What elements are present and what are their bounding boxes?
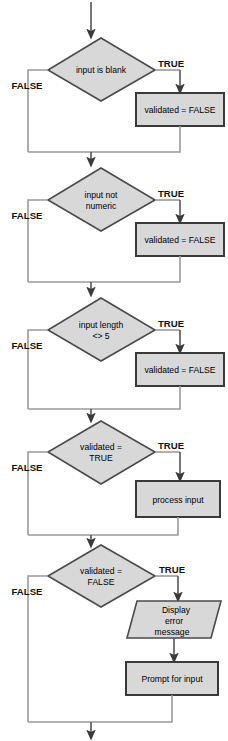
section-validated-false-check: validated = FALSE TRUE Display error mes… xyxy=(12,545,221,735)
true-label-3: TRUE xyxy=(158,318,185,329)
io-display-error-message-label-2: error xyxy=(165,616,183,626)
false-label-1: FALSE xyxy=(12,80,44,91)
decision-input-is-blank-label-1: input is blank xyxy=(76,65,127,75)
process-validated-false-3-label: validated = FALSE xyxy=(145,365,216,375)
decision-input-not-numeric-label-1: input not xyxy=(85,190,119,200)
decision-input-length-label-2: <> 5 xyxy=(92,331,109,341)
decision-validated-false[interactable] xyxy=(48,545,155,607)
true-label-1: TRUE xyxy=(158,58,185,69)
true-label-4: TRUE xyxy=(158,440,185,451)
merge-line-2 xyxy=(28,256,180,282)
io-display-error-message-label-1: Display xyxy=(162,605,191,615)
process-validated-false-1-label: validated = FALSE xyxy=(145,105,216,115)
false-branch-line-5 xyxy=(28,576,48,722)
merge-line-1 xyxy=(28,126,180,152)
decision-input-length-label-1: input length xyxy=(79,320,124,330)
process-validated-false-2-label: validated = FALSE xyxy=(145,235,216,245)
flowchart-canvas: input is blank TRUE validated = FALSE FA… xyxy=(0,0,228,741)
decision-validated-true-label-1: validated = xyxy=(80,442,122,452)
process-process-input-label: process input xyxy=(152,495,204,505)
merge-line-4 xyxy=(28,517,178,535)
decision-validated-false-label-2: FALSE xyxy=(88,577,115,587)
flowchart-svg: input is blank TRUE validated = FALSE FA… xyxy=(0,0,228,741)
false-label-4: FALSE xyxy=(12,462,44,473)
merge-line-5 xyxy=(28,695,172,722)
section-numeric-check: input not numeric TRUE validated = FALSE… xyxy=(12,168,224,292)
false-label-2: FALSE xyxy=(12,210,44,221)
merge-line-3 xyxy=(28,386,180,409)
false-label-3: FALSE xyxy=(12,340,44,351)
false-label-5: FALSE xyxy=(12,586,44,597)
true-label-5: TRUE xyxy=(159,564,186,575)
io-display-error-message-label-3: message xyxy=(155,627,190,637)
decision-input-not-numeric-label-2: numeric xyxy=(86,201,117,211)
true-label-2: TRUE xyxy=(158,188,185,199)
section-validated-true-check: validated = TRUE TRUE process input FALS… xyxy=(12,421,220,543)
decision-validated-false-label-1: validated = xyxy=(80,566,122,576)
section-blank-check: input is blank TRUE validated = FALSE FA… xyxy=(12,38,224,162)
decision-validated-true-label-2: TRUE xyxy=(89,453,113,463)
process-prompt-for-input-label: Prompt for input xyxy=(141,674,203,684)
section-length-check: input length <> 5 TRUE validated = FALSE… xyxy=(12,298,224,418)
